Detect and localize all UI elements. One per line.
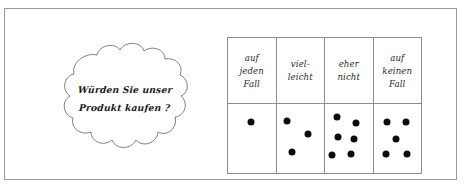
tally-cell-vielleicht: [276, 104, 325, 174]
header-cell-vielleicht: viel- leicht: [276, 38, 325, 104]
tally-dot: [383, 118, 390, 125]
tally-dot: [393, 135, 400, 142]
tally-dot: [350, 135, 357, 142]
header-line: jeden: [240, 66, 264, 76]
tally-dot: [402, 118, 409, 125]
tally-dot: [382, 150, 389, 157]
header-line: Fall: [244, 79, 260, 89]
cloud-outline-icon: [57, 37, 193, 159]
header-lines: auf keinen Fall: [374, 53, 422, 89]
tally-cell-eher-nicht: [325, 104, 374, 174]
header-lines: auf jeden Fall: [228, 53, 276, 89]
header-line: keinen: [382, 66, 412, 76]
header-line: leicht: [288, 72, 313, 82]
header-cell-auf-jeden-fall: auf jeden Fall: [228, 38, 277, 104]
header-cell-eher-nicht: eher nicht: [325, 38, 374, 104]
tally-dot: [335, 134, 342, 141]
tally-dot: [328, 152, 335, 159]
header-line: nicht: [337, 72, 360, 82]
tally-cell-auf-keinen-fall: [373, 104, 422, 174]
header-lines: viel- leicht: [277, 59, 325, 82]
tally-dot: [289, 149, 296, 156]
tally-cell-auf-jeden-fall: [228, 104, 277, 174]
header-line: auf: [245, 53, 259, 63]
table-header-row: auf jeden Fall viel- leicht eher nicht: [228, 38, 422, 104]
header-line: eher: [339, 59, 359, 69]
speech-bubble: Würden Sie unser Produkt kaufen ?: [57, 37, 193, 159]
header-cell-auf-keinen-fall: auf keinen Fall: [373, 38, 422, 104]
tally-dot: [403, 150, 410, 157]
tally-dot: [247, 118, 254, 125]
tally-dot: [348, 150, 355, 157]
outer-frame: Würden Sie unser Produkt kaufen ? auf je…: [4, 8, 457, 180]
table-tally-row: [228, 104, 422, 174]
tally-dot: [283, 118, 290, 125]
header-lines: eher nicht: [325, 59, 373, 82]
tally-dot: [353, 119, 360, 126]
diagram-canvas: Würden Sie unser Produkt kaufen ? auf je…: [0, 0, 465, 188]
tally-dot: [334, 114, 341, 121]
tally-dot: [304, 131, 311, 138]
header-line: Fall: [389, 79, 405, 89]
header-line: auf: [390, 53, 404, 63]
survey-table: auf jeden Fall viel- leicht eher nicht: [227, 37, 422, 174]
header-line: viel-: [291, 59, 310, 69]
